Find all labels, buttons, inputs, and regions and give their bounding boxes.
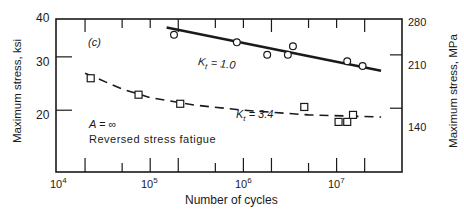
kt1-subscript: t <box>205 62 208 71</box>
circle-marker <box>233 39 240 46</box>
x-tick-1e4: 104 <box>50 176 67 190</box>
circle-marker <box>284 51 291 58</box>
kt3-fit-curve <box>85 73 381 117</box>
a-infinity-label: A = ∞ <box>89 118 116 130</box>
kt2-label: Kt = 3.4 <box>236 108 273 123</box>
y-axis-label-right: Maximum stress, MPa <box>447 26 459 156</box>
circle-marker <box>344 58 351 65</box>
y-right-tick-140: 140 <box>408 121 426 133</box>
y-axis-label-left: Maximum stress, ksi <box>11 36 23 146</box>
x-tick-exp: 4 <box>62 176 66 185</box>
plot-frame <box>56 19 402 172</box>
square-marker <box>135 91 142 98</box>
circle-marker <box>171 31 178 38</box>
square-marker <box>350 111 357 118</box>
x-tick-exp: 6 <box>247 176 251 185</box>
x-tick-exp: 7 <box>340 176 344 185</box>
x-tick-base: 10 <box>328 178 340 190</box>
axis-ticks <box>56 19 402 172</box>
circle-marker <box>359 63 366 70</box>
panel-label: (c) <box>88 36 101 48</box>
y-right-tick-280: 280 <box>408 16 426 28</box>
data-markers <box>87 31 366 125</box>
x-tick-1e6: 106 <box>235 176 252 190</box>
reversed-stress-label: Reversed stress fatigue <box>89 133 216 145</box>
circle-marker <box>264 51 271 58</box>
y-tick-30: 30 <box>36 55 49 69</box>
x-tick-1e5: 105 <box>141 176 158 190</box>
square-marker <box>301 103 308 110</box>
y-tick-20: 20 <box>36 108 49 122</box>
x-tick-exp: 5 <box>153 176 157 185</box>
square-marker <box>335 118 342 125</box>
x-tick-1e7: 107 <box>328 176 345 190</box>
square-marker <box>344 118 351 125</box>
x-tick-base: 10 <box>141 178 153 190</box>
circle-marker <box>290 43 297 50</box>
y-tick-40: 40 <box>36 11 49 25</box>
square-marker <box>177 100 184 107</box>
kt2-value: = 3.4 <box>249 108 274 120</box>
x-axis-label: Number of cycles <box>185 193 278 207</box>
square-marker <box>87 75 94 82</box>
kt1-value: = 1.0 <box>210 56 236 71</box>
fatigue-chart <box>0 0 464 212</box>
y-right-tick-210: 210 <box>408 59 426 71</box>
kt2-subscript: t <box>243 114 245 123</box>
x-tick-base: 10 <box>50 178 62 190</box>
x-tick-base: 10 <box>235 178 247 190</box>
